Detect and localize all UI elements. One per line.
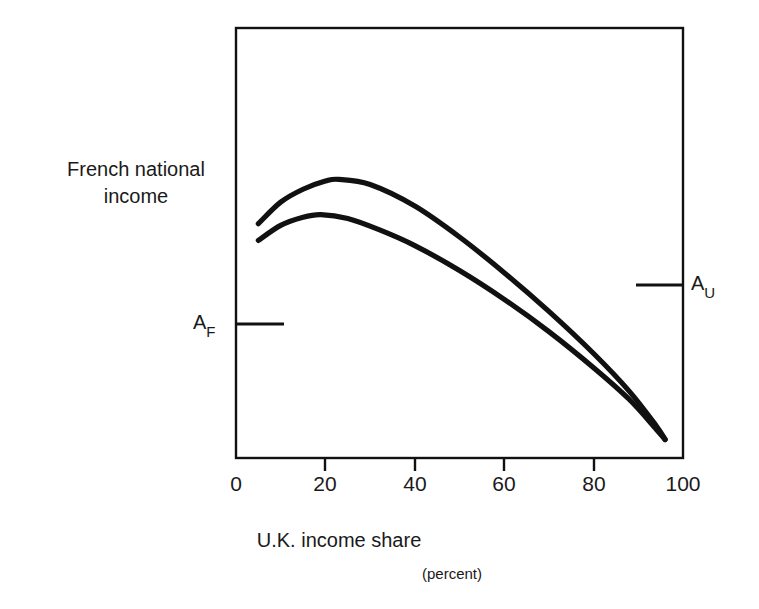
plot-frame — [236, 28, 683, 458]
x-tick-label-60: 60 — [492, 472, 515, 496]
x-tick-label-80: 80 — [582, 472, 605, 496]
plot-svg — [0, 0, 759, 609]
curve-upper — [258, 179, 665, 439]
marker-label-au: AU — [691, 272, 715, 298]
marker-au-base: A — [691, 272, 704, 294]
marker-au-subscript: U — [704, 284, 715, 301]
x-tick-label-0: 0 — [230, 472, 242, 496]
x-axis-title: U.K. income share — [257, 529, 422, 552]
figure-container: French national income U.K. income share… — [0, 0, 759, 609]
marker-af-base: A — [193, 311, 206, 333]
x-axis-subtitle: (percent) — [422, 565, 482, 582]
y-axis-title-line1: French national — [48, 156, 224, 183]
curve-lower — [258, 215, 665, 440]
x-tick-label-20: 20 — [313, 472, 336, 496]
marker-label-af: AF — [193, 311, 216, 337]
y-axis-title: French national income — [48, 156, 224, 210]
y-axis-title-line2: income — [48, 183, 224, 210]
marker-af-subscript: F — [206, 323, 215, 340]
x-tick-label-100: 100 — [665, 472, 700, 496]
x-axis-ticks — [325, 459, 594, 471]
x-tick-label-40: 40 — [403, 472, 426, 496]
